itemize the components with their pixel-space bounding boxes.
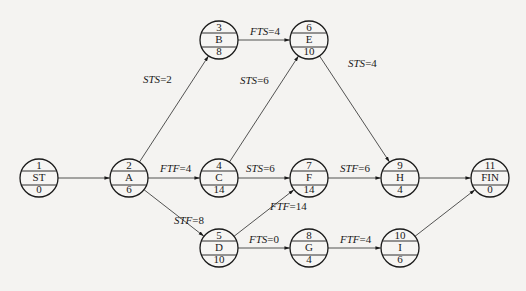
node-b: 3B8 bbox=[200, 21, 238, 59]
node-name: F bbox=[306, 171, 312, 183]
node-name: A bbox=[125, 171, 133, 183]
node-name: ST bbox=[33, 171, 46, 183]
node-name: D bbox=[215, 241, 223, 253]
node-id: 11 bbox=[485, 159, 496, 171]
node-duration: 8 bbox=[216, 45, 222, 57]
edge-10-to-11 bbox=[415, 190, 475, 236]
node-e: 6E10 bbox=[290, 21, 328, 59]
node-c: 4C14 bbox=[200, 159, 238, 197]
node-h: 9H4 bbox=[381, 159, 419, 197]
edge-4-to-6 bbox=[229, 56, 298, 162]
edge-label: FTS=0 bbox=[248, 233, 280, 245]
edge-2-to-5 bbox=[144, 190, 204, 236]
node-id: 4 bbox=[216, 159, 222, 171]
edges bbox=[58, 40, 475, 248]
node-id: 3 bbox=[216, 21, 222, 33]
node-duration: 4 bbox=[306, 253, 312, 265]
node-id: 9 bbox=[397, 159, 403, 171]
node-a: 2A6 bbox=[110, 159, 148, 197]
edge-5-to-7 bbox=[234, 190, 294, 236]
edge-label: STF=6 bbox=[340, 162, 371, 174]
node-id: 10 bbox=[395, 229, 407, 241]
node-g: 8G4 bbox=[290, 229, 328, 267]
node-st: 1ST0 bbox=[20, 159, 58, 197]
node-duration: 6 bbox=[397, 253, 403, 265]
node-duration: 0 bbox=[36, 183, 42, 195]
node-f: 7F14 bbox=[290, 159, 328, 197]
node-id: 2 bbox=[126, 159, 132, 171]
node-duration: 10 bbox=[304, 45, 316, 57]
edge-label: STS=4 bbox=[348, 57, 377, 69]
node-id: 8 bbox=[306, 229, 312, 241]
node-name: E bbox=[306, 33, 313, 45]
node-name: I bbox=[398, 241, 402, 253]
node-fin: 11FIN0 bbox=[471, 159, 509, 197]
node-duration: 6 bbox=[126, 183, 132, 195]
node-i: 10I6 bbox=[381, 229, 419, 267]
edge-label: FTF=14 bbox=[269, 200, 307, 212]
nodes: 1ST02A63B84C145D106E107F148G49H410I611FI… bbox=[20, 21, 509, 267]
node-name: H bbox=[396, 171, 404, 183]
edge-label: STF=8 bbox=[174, 214, 205, 226]
node-id: 6 bbox=[306, 21, 312, 33]
edge-6-to-9 bbox=[320, 56, 390, 162]
edge-label: STS=6 bbox=[246, 162, 275, 174]
node-duration: 14 bbox=[304, 183, 316, 195]
edge-label: FTS=4 bbox=[249, 25, 281, 37]
node-name: G bbox=[305, 241, 313, 253]
edge-label: FTF=4 bbox=[159, 162, 192, 174]
node-name: C bbox=[215, 171, 222, 183]
node-duration: 10 bbox=[214, 253, 226, 265]
node-duration: 0 bbox=[487, 183, 493, 195]
node-name: B bbox=[215, 33, 222, 45]
edge-label: STS=2 bbox=[143, 73, 172, 85]
edge-labels: STS=2FTF=4STF=8FTS=4STS=6STS=6FTF=14FTS=… bbox=[143, 25, 377, 245]
node-id: 5 bbox=[216, 229, 222, 241]
node-duration: 14 bbox=[214, 183, 226, 195]
node-id: 7 bbox=[306, 159, 312, 171]
edge-label: FTF=4 bbox=[339, 233, 372, 245]
node-d: 5D10 bbox=[200, 229, 238, 267]
node-name: FIN bbox=[481, 171, 499, 183]
node-id: 1 bbox=[36, 159, 42, 171]
node-duration: 4 bbox=[397, 183, 403, 195]
edge-label: STS=6 bbox=[240, 74, 269, 86]
network-diagram: STS=2FTF=4STF=8FTS=4STS=6STS=6FTF=14FTS=… bbox=[0, 0, 526, 291]
